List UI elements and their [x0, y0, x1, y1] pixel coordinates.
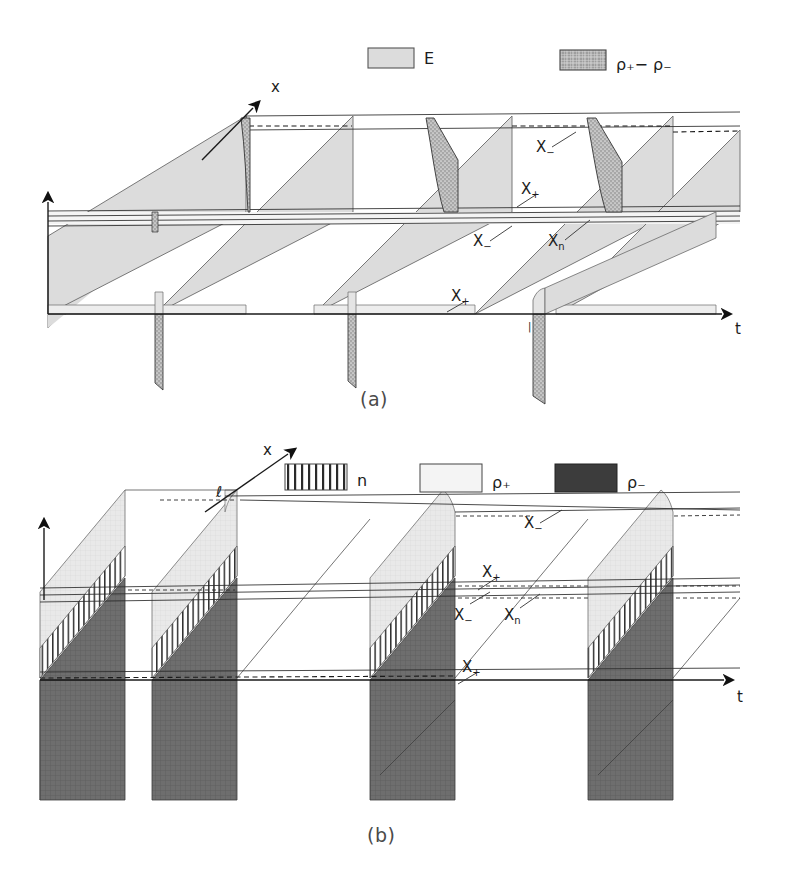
b-top-line-3 [455, 508, 740, 512]
leader-x-minus-lower [490, 226, 512, 241]
top-line-1 [246, 112, 740, 116]
b-label-x-minus-upper: X− [524, 514, 543, 534]
panel-a-descending-strips [155, 314, 545, 404]
floor-band-3 [556, 305, 716, 314]
panel-a-tick-mark: | [528, 321, 531, 333]
rho-minus-sheet-3 [370, 680, 455, 800]
panel-b-legend: n ρ₊ ρ₋ [285, 464, 646, 492]
panel-a-x-axis-label: x [271, 78, 280, 96]
panel-b-caption: (b) [367, 824, 395, 846]
panel-b-ell-label: ℓ [215, 483, 222, 501]
descending-strip-2 [348, 314, 356, 388]
b-label-x-plus-middle: X+ [482, 563, 501, 583]
rho-minus-sheet-1b [40, 680, 125, 800]
legend-label-rho-minus: ρ₋ [627, 473, 646, 492]
charge-spike-4 [152, 212, 158, 232]
panel-a-legend: E ρ₊− ρ₋ [368, 48, 672, 74]
legend-swatch-n [285, 464, 347, 490]
panel-a: x t E ρ₊− ρ₋ X− X+ X− X [48, 48, 741, 410]
descending-strip-1 [155, 314, 163, 390]
floor-wedge-2 [348, 292, 356, 314]
panel-b: x t ℓ n ρ₊ ρ₋ X− X+ X− [40, 441, 743, 846]
top-dash-3 [673, 131, 740, 132]
figure-root: x t E ρ₊− ρ₋ X− X+ X− X [0, 0, 791, 876]
leader-x-minus-upper [552, 132, 576, 147]
floor-wedge-3 [533, 288, 545, 314]
b-rib-2 [322, 519, 370, 576]
rho-minus-sheet-4 [588, 680, 673, 800]
label-x-plus-middle: X+ [521, 180, 540, 200]
rho-minus-sheet-2 [152, 680, 237, 800]
legend-label-e: E [424, 49, 434, 68]
floor-wedge-1 [155, 292, 163, 314]
legend-swatch-e [368, 48, 414, 68]
descending-strip-3 [533, 314, 545, 404]
b-rib-3 [455, 519, 588, 678]
panel-b-rho-plus-sheets [40, 490, 673, 678]
legend-label-n: n [357, 471, 367, 490]
label-x-minus-lower: X− [473, 232, 492, 252]
b-leader-x-n [520, 594, 540, 608]
panel-b-t-axis-label: t [737, 688, 743, 706]
b-rib-4 [673, 598, 740, 678]
figure-svg: x t E ρ₊− ρ₋ X− X+ X− X [0, 0, 791, 876]
panel-b-n-bands [40, 546, 673, 678]
floor-band-1 [48, 305, 246, 314]
b-label-x-n: Xn [504, 606, 521, 626]
label-x-plus-bottom: X+ [451, 287, 470, 307]
panel-a-caption: (a) [360, 388, 388, 410]
b-label-x-plus-bottom: X+ [462, 658, 481, 678]
panel-b-rho-minus-sheets [40, 680, 673, 800]
legend-swatch-rho-minus [555, 464, 617, 492]
panel-a-t-axis-label: t [735, 320, 741, 338]
b-leader-x-minus-upper [540, 510, 562, 523]
panel-b-x-axis-label: x [263, 441, 272, 459]
label-x-minus-upper: X− [536, 138, 555, 158]
legend-swatch-rho-plus [420, 464, 482, 492]
panel-a-floor-bands [48, 305, 716, 314]
panel-b-annotations: X− X+ X− Xn X+ [454, 510, 562, 684]
b-top-dash-3 [674, 515, 740, 516]
legend-swatch-rho-diff [560, 50, 606, 70]
legend-label-rho-plus: ρ₊ [492, 473, 511, 492]
legend-label-rho-diff: ρ₊− ρ₋ [616, 55, 672, 74]
b-label-x-minus-lower: X− [454, 606, 473, 626]
